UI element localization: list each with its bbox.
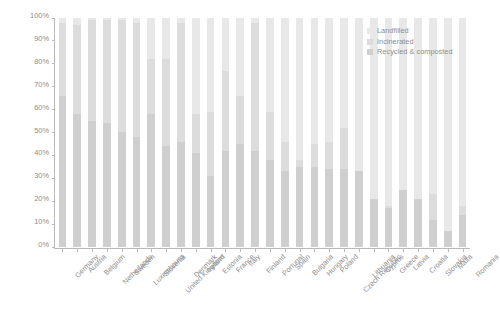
bar-finland[interactable] (251, 18, 259, 247)
x-axis-label: Slovenia (162, 253, 187, 278)
bar-estonia[interactable] (207, 18, 215, 247)
bar-united-kingdom[interactable] (162, 18, 170, 247)
bar-segment-incinerated (207, 112, 215, 176)
bar-netherlands[interactable] (103, 18, 111, 247)
bar-segment-incinerated (118, 20, 126, 132)
x-tick-mark (418, 249, 419, 252)
x-tick-mark (196, 249, 197, 252)
bar-belgium[interactable] (88, 18, 96, 247)
bar-segment-recycled (296, 167, 304, 247)
bar-denmark[interactable] (177, 18, 185, 247)
y-tick-mark (52, 155, 55, 156)
bar-germany[interactable] (59, 18, 67, 247)
x-tick-mark (403, 249, 404, 252)
x-axis-label: Sweden (132, 253, 156, 277)
legend-item[interactable]: Recycled & composted (367, 48, 453, 56)
bar-segment-incinerated (103, 20, 111, 123)
bar-segment-recycled (311, 167, 319, 247)
bar-czech-republic[interactable] (340, 18, 348, 247)
bar-segment-incinerated (311, 144, 319, 167)
bar-austria[interactable] (73, 18, 81, 247)
bar-segment-recycled (236, 144, 244, 247)
bar-portugal[interactable] (266, 18, 274, 247)
bar-segment-recycled (385, 208, 393, 247)
legend-swatch-icon (367, 49, 373, 55)
x-axis-label: Romania (474, 253, 500, 279)
bar-segment-incinerated (429, 194, 437, 219)
bar-segment-recycled (177, 142, 185, 247)
y-tick-mark (52, 224, 55, 225)
bar-segment-recycled (325, 169, 333, 247)
bar-segment-recycled (73, 114, 81, 247)
bar-segment-incinerated (340, 128, 348, 169)
legend-label: Landfilled (377, 27, 409, 35)
bar-segment-incinerated (222, 71, 230, 151)
x-tick-mark (107, 249, 108, 252)
bar-segment-landfilled (296, 18, 304, 160)
bar-segment-incinerated (459, 206, 467, 215)
bar-segment-recycled (266, 160, 274, 247)
bar-spain[interactable] (281, 18, 289, 247)
legend-label: Incinerated (377, 38, 414, 46)
bar-segment-recycled (147, 114, 155, 247)
bar-segment-recycled (192, 153, 200, 247)
bar-luxembourg[interactable] (133, 18, 141, 247)
x-tick-mark (433, 249, 434, 252)
bar-france[interactable] (222, 18, 230, 247)
bar-segment-incinerated (88, 20, 96, 121)
legend-swatch-icon (367, 28, 373, 34)
bar-segment-recycled (133, 137, 141, 247)
legend-item[interactable]: Landfilled (367, 27, 453, 35)
legend-label: Recycled & composted (377, 48, 453, 56)
x-tick-mark (314, 249, 315, 252)
y-tick-mark (52, 40, 55, 41)
x-tick-mark (448, 249, 449, 252)
bar-segment-landfilled (147, 18, 155, 59)
y-tick-mark (52, 201, 55, 202)
bar-segment-recycled (162, 146, 170, 247)
bar-segment-recycled (414, 199, 422, 247)
bar-ireland[interactable] (192, 18, 200, 247)
bar-segment-recycled (444, 231, 452, 247)
bar-segment-incinerated (236, 96, 244, 144)
bar-segment-landfilled (459, 18, 467, 206)
y-tick-mark (52, 86, 55, 87)
legend-item[interactable]: Incinerated (367, 38, 453, 46)
x-tick-mark (300, 249, 301, 252)
bar-segment-recycled (103, 123, 111, 247)
bar-segment-recycled (222, 151, 230, 247)
x-tick-mark (359, 249, 360, 252)
bar-segment-incinerated (192, 114, 200, 153)
bar-segment-landfilled (73, 18, 81, 25)
bar-segment-recycled (459, 215, 467, 247)
y-tick-label: 40% (34, 149, 49, 157)
x-tick-mark (285, 249, 286, 252)
bar-segment-landfilled (340, 18, 348, 128)
bar-poland[interactable] (325, 18, 333, 247)
x-tick-mark (374, 249, 375, 252)
bar-sweden[interactable] (118, 18, 126, 247)
y-tick-mark (52, 18, 55, 19)
bar-segment-landfilled (236, 18, 244, 96)
bar-segment-landfilled (207, 18, 215, 112)
bar-segment-landfilled (162, 18, 170, 59)
bar-segment-recycled (370, 199, 378, 247)
bar-romania[interactable] (459, 18, 467, 247)
bar-italy[interactable] (236, 18, 244, 247)
y-tick-label: 100% (30, 12, 49, 20)
x-tick-mark (137, 249, 138, 252)
bar-slovenia[interactable] (147, 18, 155, 247)
bar-segment-incinerated (162, 59, 170, 146)
y-tick-label: 80% (34, 58, 49, 66)
bar-segment-recycled (355, 171, 363, 247)
y-tick-mark (52, 178, 55, 179)
bar-segment-recycled (281, 171, 289, 247)
bar-segment-landfilled (325, 18, 333, 142)
bar-segment-recycled (429, 220, 437, 247)
bar-hungary[interactable] (311, 18, 319, 247)
bar-segment-incinerated (296, 160, 304, 167)
x-tick-mark (344, 249, 345, 252)
bar-bulgaria[interactable] (296, 18, 304, 247)
bar-lithuania[interactable] (355, 18, 363, 247)
